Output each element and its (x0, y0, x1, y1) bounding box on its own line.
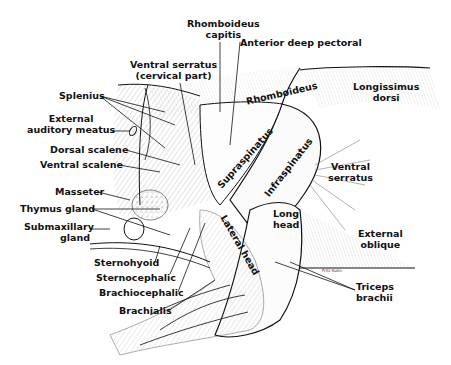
label-brachiocephalic: Brachiocephalic (99, 287, 184, 298)
label-text: dorsi (353, 92, 419, 103)
label-text: Submaxillary (24, 221, 90, 232)
label-triceps-brachii: Triceps brachii (356, 281, 394, 303)
label-brachialis: Brachialis (119, 305, 172, 316)
label-dorsal-scalene: Dorsal scalene (50, 144, 128, 155)
label-text: Rhomboideus (187, 18, 260, 29)
label-anterior-deep-pectoral: Anterior deep pectoral (240, 37, 362, 48)
label-external-auditory-meatus: External auditory meatus (27, 113, 115, 135)
label-external-oblique: External oblique (358, 228, 403, 250)
submaxillary-gland-shape (124, 218, 144, 240)
label-splenius: Splenius (59, 90, 105, 101)
label-text: External (358, 228, 403, 239)
label-sternohyoid: Sternohyoid (94, 257, 159, 268)
anatomy-figure: Rhomboideus capitis Anterior deep pector… (0, 0, 451, 365)
label-text: head (273, 219, 299, 230)
label-text: Longissimus (353, 81, 419, 92)
label-ventral-serratus: Ventral serratus (328, 161, 373, 183)
label-ventral-serratus-cervical: Ventral serratus (cervical part) (130, 59, 217, 81)
thymus-gland-shape (132, 190, 168, 220)
label-text: brachii (356, 292, 394, 303)
label-sternocephalic: Sternocephalic (96, 272, 176, 283)
label-text: Long (273, 208, 299, 219)
label-text: Triceps (356, 281, 394, 292)
label-text: auditory meatus (27, 124, 115, 135)
label-submaxillary-gland: Submaxillary gland (24, 221, 90, 243)
label-masseter: Masseter (55, 186, 104, 197)
label-text: Ventral serratus (130, 59, 217, 70)
label-text: serratus (328, 172, 373, 183)
label-thymus-gland: Thymus gland (20, 203, 95, 214)
label-text: (cervical part) (130, 70, 217, 81)
artist-signature: Fritz Kuhn (322, 268, 342, 273)
label-text: oblique (358, 239, 403, 250)
label-ventral-scalene: Ventral scalene (40, 159, 123, 170)
label-text: gland (24, 232, 90, 243)
label-long-head: Long head (273, 208, 299, 230)
label-longissimus-dorsi: Longissimus dorsi (353, 81, 419, 103)
label-text: Ventral (328, 161, 373, 172)
label-text: External (27, 113, 115, 124)
